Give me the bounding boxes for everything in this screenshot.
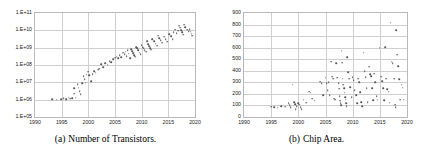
data-point — [359, 91, 361, 93]
data-point — [63, 97, 65, 99]
data-point — [290, 106, 292, 108]
data-point — [367, 101, 369, 103]
data-point — [336, 62, 338, 64]
data-point — [380, 76, 382, 78]
figure-row: 1.E+051.E+061.E+071.E+081.E+091.E+101.E+… — [0, 0, 422, 156]
data-point — [351, 97, 353, 99]
data-point — [323, 94, 325, 96]
data-point — [384, 46, 386, 48]
data-point — [107, 64, 109, 66]
y-axis-tick-label: 700 — [232, 34, 241, 39]
y-axis-tick-label: 1.E+06 — [15, 97, 32, 102]
data-point — [354, 90, 356, 92]
gridline-vertical — [353, 13, 354, 117]
data-point — [375, 82, 377, 84]
data-point — [301, 109, 303, 111]
x-axis-tick-label: 2010 — [136, 120, 148, 125]
data-point — [401, 84, 403, 86]
data-point — [189, 28, 191, 30]
data-point — [352, 76, 354, 78]
x-axis-tick-label: 2000 — [83, 120, 95, 125]
caption-tag-a: (a) — [55, 134, 66, 144]
data-point — [342, 62, 344, 64]
data-point — [174, 29, 176, 31]
data-point — [344, 92, 346, 94]
data-point — [374, 73, 376, 75]
x-axis-tick-label: 2015 — [374, 120, 386, 125]
data-point — [355, 94, 357, 96]
data-point — [383, 99, 385, 101]
y-axis-tick-label: 200 — [232, 91, 241, 96]
data-point — [129, 57, 131, 59]
data-point — [74, 93, 76, 95]
data-point — [310, 92, 312, 94]
x-axis-tick-label: 2005 — [109, 120, 121, 125]
y-axis-tick-label: 300 — [232, 80, 241, 85]
data-point — [356, 102, 358, 104]
data-point — [60, 99, 62, 101]
data-point — [126, 55, 128, 57]
data-point — [402, 87, 404, 89]
y-axis-tick-label: 1.E+10 — [15, 28, 32, 33]
data-point — [182, 34, 184, 36]
data-point — [371, 87, 373, 89]
caption-tag-b: (b) — [289, 134, 300, 144]
data-point — [140, 54, 142, 56]
y-axis-tick-label: 1.E+08 — [15, 62, 32, 67]
data-point — [281, 105, 283, 107]
data-point — [160, 40, 162, 42]
caption-panel-a: (a)Number of Transistors. — [0, 134, 211, 144]
data-point — [382, 87, 384, 89]
y-axis-tick-label: 900 — [232, 10, 241, 15]
data-point — [150, 49, 152, 51]
data-point — [314, 100, 316, 102]
data-point — [277, 107, 279, 109]
data-point — [84, 78, 86, 80]
data-point — [146, 41, 148, 43]
data-point — [345, 99, 347, 101]
data-point — [337, 77, 339, 79]
data-point — [85, 82, 87, 84]
data-point — [361, 101, 363, 103]
data-point — [362, 105, 364, 107]
y-axis-tick-label: 600 — [232, 45, 241, 50]
data-point — [345, 102, 347, 104]
x-axis-tick-label: 1990 — [238, 120, 250, 125]
data-point — [179, 27, 181, 29]
y-axis-tick-label: 100 — [232, 103, 241, 108]
data-point — [73, 88, 75, 90]
data-point — [399, 79, 401, 81]
data-point — [83, 76, 85, 78]
y-axis-tick-label: 1.E+09 — [15, 45, 32, 50]
data-point — [82, 82, 84, 84]
data-point — [157, 35, 159, 37]
data-point — [295, 108, 297, 110]
data-point — [192, 35, 194, 37]
data-point — [339, 95, 341, 97]
data-point — [185, 26, 187, 28]
y-axis-tick-label: 500 — [232, 57, 241, 62]
gridline-vertical — [271, 13, 272, 117]
data-point — [95, 72, 97, 74]
data-point — [349, 78, 351, 80]
data-point — [398, 65, 400, 67]
data-point — [153, 40, 155, 42]
gridline-vertical — [115, 13, 116, 117]
gridline-vertical — [380, 13, 381, 117]
data-point — [340, 105, 342, 107]
data-point — [348, 71, 350, 73]
data-point — [72, 97, 74, 99]
caption-text-a: Number of Transistors. — [68, 134, 156, 144]
data-point — [395, 30, 397, 32]
data-point — [373, 99, 375, 101]
caption-panel-b: (b)Chip Area. — [211, 134, 422, 144]
data-point — [343, 84, 345, 86]
data-point — [92, 73, 94, 75]
data-point — [305, 102, 307, 104]
data-point — [390, 22, 392, 24]
data-point — [156, 45, 158, 47]
data-point — [376, 95, 378, 97]
x-axis-tick-label: 1990 — [29, 120, 41, 125]
data-point — [327, 90, 329, 92]
data-point — [292, 84, 294, 86]
